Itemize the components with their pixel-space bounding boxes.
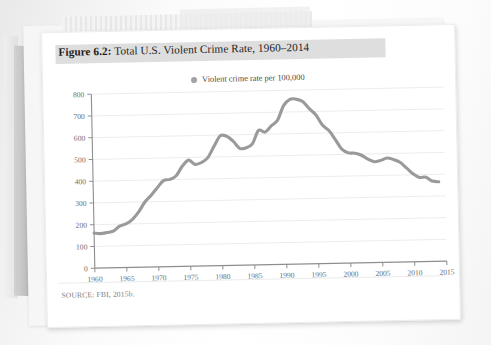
figure-card: Figure 6.2: Total U.S. Violent Crime Rat… [41,24,461,328]
y-tick-label: 0 [84,264,88,273]
data-line-violent-crime-rate [91,96,439,234]
y-tick-label: 200 [75,221,87,230]
gridline [93,174,445,181]
y-tick-label: 100 [76,242,88,251]
screenshot-stage: Figure 6.2: Total U.S. Violent Crime Rat… [0,0,491,345]
y-tick-label: 400 [75,177,87,186]
y-tick-label: 300 [75,199,87,208]
gridline [94,218,446,225]
y-tick-label: 500 [74,155,86,164]
y-tick-label: 800 [73,90,85,99]
gridline [91,87,443,94]
gridline [92,131,444,138]
gridline [92,109,444,116]
y-tick-label: 600 [74,134,86,143]
x-axis [95,261,447,268]
gridline [94,239,446,246]
source-note: SOURCE: FBI, 2015b. [61,289,134,299]
y-tick-label: 700 [73,112,85,121]
